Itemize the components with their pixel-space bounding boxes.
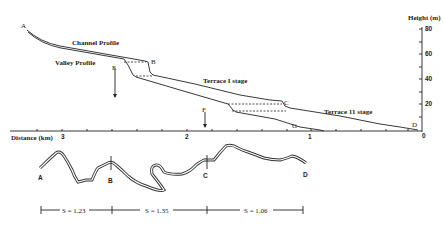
point-c-label: C [284,99,289,107]
sinuosity-ab: S = 1.23 [62,207,86,215]
sinuosity-bc: S = 1.35 [145,207,169,215]
planform-point-c: C [203,172,208,179]
y-tick-60: 60 [425,50,433,57]
planform-point-b: B [108,177,113,184]
terrace-2-label: Terrace 11 stage [324,108,372,116]
point-e-label: E [112,64,116,72]
e-arrow [113,68,117,98]
x-tick-2: 2 [185,133,189,140]
y-tick-0: 0 [422,132,426,139]
channel-profile-line [27,30,153,75]
point-f-label: F [202,106,206,114]
y-tick-20: 20 [425,100,433,107]
point-d-label: D [412,121,417,129]
y-tick-40: 40 [425,75,433,82]
x-tick-3: 3 [61,133,65,140]
planform-point-a: A [38,174,43,181]
planform-point-d: D [303,171,308,178]
river-profile-diagram: Height (m) 80 60 40 20 0 Distance (km) 3… [0,0,443,229]
distance-axis: Distance (km) 3 2 1 [10,129,422,142]
x-tick-1: 1 [308,133,312,140]
valley-profile-line [124,59,236,112]
f-arrow [203,112,207,128]
point-b-label: B [151,58,156,66]
terrace-1-label: Terrace I stage [203,77,247,85]
y-tick-80: 80 [425,25,433,32]
sinuosity-scale: S = 1.23 S = 1.35 S = 1.06 [41,206,303,215]
sinuosity-cd: S = 1.06 [244,207,268,215]
planform-river [40,145,306,190]
channel-lower-line [236,112,324,131]
point-g-label: G [292,122,297,130]
valley-profile-label: Valley Profile [55,59,95,67]
height-axis-title: Height (m) [408,14,441,22]
point-a-label: A [21,22,26,30]
distance-axis-title: Distance (km) [11,134,53,142]
channel-profile-label: Channel Profile [72,39,119,47]
